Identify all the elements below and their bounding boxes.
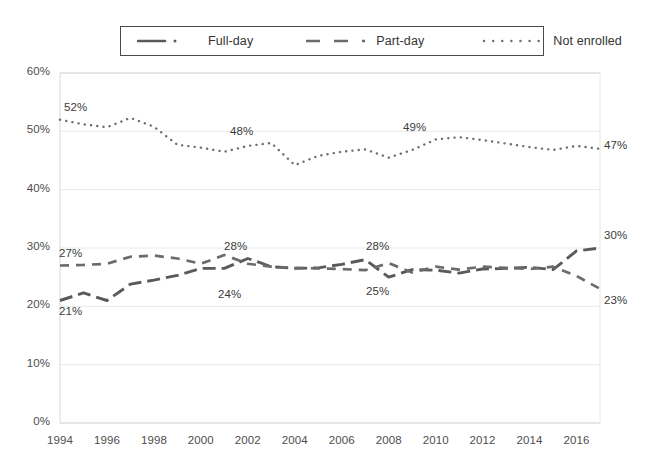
x-axis-tick-label: 1998 <box>133 434 175 446</box>
data-label: 21% <box>59 305 82 317</box>
x-axis-tick-label: 2010 <box>415 434 457 446</box>
data-label: 47% <box>604 139 627 151</box>
data-label: 49% <box>403 121 426 133</box>
y-axis-tick-label: 10% <box>8 357 50 369</box>
y-axis-tick-label: 40% <box>8 182 50 194</box>
y-axis-tick-label: 60% <box>8 65 50 77</box>
y-axis-tick-label: 30% <box>8 240 50 252</box>
y-axis-tick-label: 0% <box>8 415 50 427</box>
chart-gridlines <box>60 73 600 423</box>
x-axis-tick-label: 2012 <box>462 434 504 446</box>
x-axis-tick-label: 2004 <box>274 434 316 446</box>
chart-container: Full-day Part-day Not enrolled 0%10%20%3… <box>0 0 653 475</box>
x-axis-tick-label: 1996 <box>86 434 128 446</box>
data-label: 25% <box>366 285 389 297</box>
data-label: 27% <box>59 247 82 259</box>
x-axis-tick-label: 2008 <box>368 434 410 446</box>
series-line-not-enrolled <box>60 118 600 165</box>
x-axis-tick-label: 2000 <box>180 434 222 446</box>
data-label: 48% <box>230 125 253 137</box>
data-label: 28% <box>366 240 389 252</box>
x-axis-tick-label: 1994 <box>39 434 81 446</box>
data-label: 52% <box>64 101 87 113</box>
x-axis-tick-label: 2014 <box>509 434 551 446</box>
chart-series-layer <box>60 118 600 301</box>
y-axis-tick-label: 50% <box>8 123 50 135</box>
data-label: 28% <box>224 240 247 252</box>
data-label: 24% <box>218 288 241 300</box>
chart-plot-area <box>0 0 653 475</box>
x-axis-tick-label: 2002 <box>227 434 269 446</box>
x-axis-tick-label: 2006 <box>321 434 363 446</box>
x-axis-tick-label: 2016 <box>556 434 598 446</box>
data-label: 23% <box>604 294 627 306</box>
data-label: 30% <box>604 229 627 241</box>
y-axis-tick-label: 20% <box>8 298 50 310</box>
